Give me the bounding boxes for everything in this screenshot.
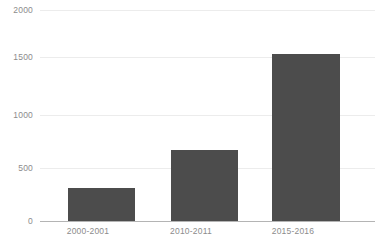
x-tick-label-2010-2011: 2010-2011: [141, 226, 241, 237]
y-tick-label-500: 500: [0, 163, 33, 173]
plot-area: [40, 0, 375, 221]
y-tick-label-2000: 2000: [0, 5, 33, 15]
bar-chart: 2000 1500 1000 500 0 2000-2001 2010-2011…: [0, 0, 383, 249]
bar-2010-2011[interactable]: [171, 150, 238, 221]
y-tick-label-0: 0: [0, 216, 33, 226]
x-tick-label-2000-2001: 2000-2001: [38, 226, 138, 237]
x-tick-label-2015-2016: 2015-2016: [243, 226, 343, 237]
gridline-2000: [40, 10, 375, 11]
y-tick-label-1500: 1500: [0, 52, 33, 62]
y-tick-label-1000: 1000: [0, 110, 33, 120]
bar-2000-2001[interactable]: [68, 188, 135, 221]
x-axis-line: [40, 221, 375, 222]
bar-2015-2016[interactable]: [272, 54, 340, 221]
